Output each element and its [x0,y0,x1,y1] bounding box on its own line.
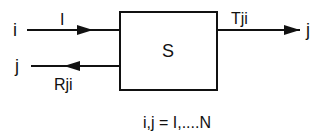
reflected-port-label: j [14,56,19,76]
input-port-label: i [13,20,17,40]
input-arrowhead-icon [77,25,93,35]
output-port-label: j [305,20,310,40]
index-caption: i,j = I,....N [143,114,211,131]
input-signal-label: I [60,11,64,28]
output-arrowhead-icon [284,25,300,35]
scattering-diagram: S i I j Rji Tji j i,j = I,....N [0,0,336,138]
reflected-signal-label: Rji [54,76,73,93]
output-signal-label: Tji [231,10,248,27]
block-label: S [162,41,174,61]
reflected-arrowhead-icon [64,61,80,71]
